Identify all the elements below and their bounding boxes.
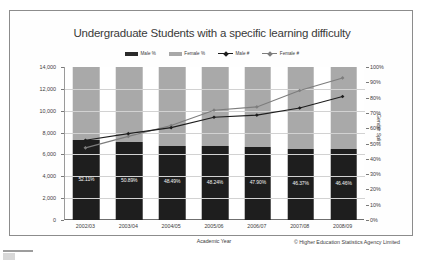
y-axis-left-tick: 10,000 [40,108,57,114]
y-axis-left-tick: 14,000 [40,64,57,70]
legend-line-female-count-icon [262,51,277,56]
bar-segment-female [202,67,229,146]
y-axis-right-tick: 90% [370,79,381,85]
chart-credit: © Higher Education Statistics Agency Lim… [294,239,400,245]
x-axis-labels: 2002/032003/042004/052005/062006/072007/… [64,223,364,229]
bar-segment-female [73,67,100,140]
y-axis-right-tickmark [366,220,369,221]
stacked-bar: 50.89% [116,67,143,220]
bar-value-label: 47.90% [245,179,272,185]
x-axis-tick-label: 2003/04 [107,223,150,229]
gridline [65,111,365,112]
stacked-bar: 48.24% [202,67,229,220]
y-axis-right-tick: 100% [370,64,384,70]
legend-item-female-pct: Female % [169,51,205,56]
bar-column: 46.37% [279,67,322,220]
y-axis-left-tick: 4,000 [43,173,57,179]
bar-value-label: 46.46% [330,180,357,186]
bar-segment-female [159,67,186,146]
y-axis-right-tick: 40% [370,156,381,162]
bar-columns: 52.11%50.89%48.49%48.24%47.90%46.37%46.4… [65,67,365,220]
y-axis-right-tick: 10% [370,202,381,208]
y-axis-right-tick: 20% [370,186,381,192]
legend-item-male-count: Male # [218,51,249,56]
page-artifact-line [3,250,33,252]
legend-item-male-pct: Male % [125,51,156,56]
legend-label-female-count: Female # [280,51,299,56]
gridline [65,89,365,90]
legend-line-male-count-icon [218,51,233,56]
gridline [65,176,365,177]
y-axis-left-tick: 0 [53,217,56,223]
x-axis-tick-label: 2004/05 [150,223,193,229]
bar-column: 46.46% [322,67,365,220]
x-axis-tick-label: 2002/03 [64,223,107,229]
bar-value-label: 50.89% [116,177,143,183]
bar-column: 52.11% [65,67,108,220]
chart-frame: Undergraduate Students with a specific l… [9,10,413,236]
y-axis-left-tick: 12,000 [40,86,57,92]
y-axis-right-tick: 80% [370,95,381,101]
x-axis-tick-label: 2005/06 [193,223,236,229]
y-axis-right-tickmark [366,98,369,99]
bar-value-label: 46.37% [287,180,314,186]
stacked-bar: 46.37% [287,67,314,220]
bar-segment-female [330,67,357,149]
legend-label-female-pct: Female % [184,51,205,56]
plot-area: 52.11%50.89%48.49%48.24%47.90%46.37%46.4… [64,67,364,220]
screenshot-page: Undergraduate Students with a specific l… [0,0,428,269]
stacked-bar: 48.49% [159,67,186,220]
y-axis-right-tickmark [366,67,369,68]
bar-column: 50.89% [108,67,151,220]
bar-segment-female [287,67,314,149]
gridline [65,154,365,155]
bar-segment-female [245,67,272,147]
bar-value-label: 48.49% [159,178,186,184]
bar-column: 48.24% [194,67,237,220]
legend-label-male-count: Male # [236,51,250,56]
y-axis-left-tick: 6,000 [43,151,57,157]
y-axis-right-tick: 30% [370,171,381,177]
y-axis-right-tickmark [366,144,369,145]
y-axis-right-tickmark [366,82,369,83]
y-axis-left-tickmark [61,220,64,221]
page-artifact-block [3,253,15,260]
y-axis-right-tickmark [366,113,369,114]
y-axis-right-tickmark [366,159,369,160]
legend-swatch-female-pct-icon [169,52,182,56]
chart-title: Undergraduate Students with a specific l… [10,27,414,39]
x-axis-tick-label: 2007/08 [278,223,321,229]
legend-swatch-male-pct-icon [125,52,138,56]
x-axis-tick-label: 2008/09 [321,223,364,229]
y-axis-right-tickmark [366,189,369,190]
stacked-bar: 47.90% [245,67,272,220]
gridline [65,198,365,199]
legend-item-female-count: Female # [262,51,299,56]
y-axis-left-tick: 8,000 [43,130,57,136]
bar-column: 47.90% [236,67,279,220]
y-axis-right-title: Gender Split [376,114,382,143]
gridline [65,133,365,134]
bar-segment-female [116,67,143,142]
y-axis-right-tick: 0% [370,217,378,223]
stacked-bar: 46.46% [330,67,357,220]
y-axis-left-labels: 02,0004,0006,0008,00010,00012,00014,000 [10,11,60,164]
y-axis-right-tickmark [366,128,369,129]
y-axis-right-tickmark [366,205,369,206]
legend-label-male-pct: Male % [141,51,156,56]
x-axis-tick-label: 2006/07 [235,223,278,229]
bar-value-label: 48.24% [202,179,229,185]
bar-column: 48.49% [151,67,194,220]
y-axis-left-tick: 2,000 [43,195,57,201]
stacked-bar: 52.11% [73,67,100,220]
chart-legend: Male % Female % Male # Female # [10,51,414,56]
y-axis-right-tickmark [366,174,369,175]
